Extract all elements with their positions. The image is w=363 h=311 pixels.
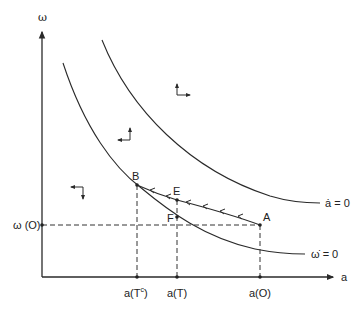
a-Tc-label: a(Tc) <box>124 286 148 299</box>
omega-dot-zero-label: ω̇ = 0 <box>311 248 338 260</box>
phase-diagram: ω a ȧ = 0 ω̇ = 0 A B E F <box>0 0 363 311</box>
point-E-label: E <box>173 185 180 197</box>
direction-arrow-down-left <box>71 187 83 199</box>
y-axis-label: ω <box>38 11 47 24</box>
point-F-label: F <box>167 212 174 224</box>
direction-arrow-up-right <box>177 84 190 95</box>
a-dot-zero-label: ȧ = 0 <box>325 197 350 209</box>
a-O-label: a(O) <box>249 287 271 299</box>
point-A-label: A <box>263 211 271 223</box>
points <box>40 183 262 279</box>
reference-lines <box>42 185 260 277</box>
direction-arrow-up-left <box>118 128 130 140</box>
trajectory-path <box>137 185 260 225</box>
omega-O-label: ω (O) <box>13 219 41 231</box>
x-axis-label: a <box>341 271 348 283</box>
point-B-label: B <box>132 170 139 182</box>
a-T-label: a(T) <box>167 287 187 299</box>
